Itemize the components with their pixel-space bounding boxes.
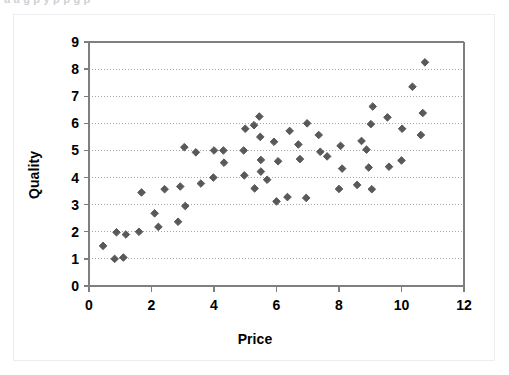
plot-area: 0123456789024681012 Quality Price [14,15,496,362]
data-point [120,254,128,262]
data-point [419,109,427,117]
data-point [302,194,310,202]
data-point [284,193,292,201]
data-point [257,168,265,176]
data-point [155,223,163,231]
data-point [358,137,366,145]
data-point [241,125,249,133]
data-point [323,153,331,161]
data-point [338,165,346,173]
data-point [335,185,343,193]
data-point [113,229,121,237]
data-point [241,172,249,180]
data-point [251,185,259,193]
y-axis-title: Quality [26,120,42,230]
data-point [353,181,361,189]
x-tick-label: 6 [273,297,281,313]
x-axis-title: Price [14,331,496,347]
data-point [385,163,393,171]
data-point [316,148,324,156]
data-point [135,228,143,236]
y-tick-label: 9 [71,34,79,50]
y-tick-label: 0 [71,278,79,294]
data-point [181,202,189,210]
data-point [369,103,377,111]
x-tick-label: 10 [394,297,410,313]
data-point [161,185,169,193]
x-tick-label: 8 [335,297,343,313]
y-tick-label: 8 [71,61,79,77]
data-point [337,142,345,150]
scatter-plot-svg: 0123456789024681012 [14,15,496,362]
y-tick-label: 7 [71,88,79,104]
data-point [99,242,107,250]
y-tick-label: 6 [71,115,79,131]
data-point [270,138,278,146]
y-tick-label: 5 [71,142,79,158]
y-tick-label: 4 [71,170,79,186]
data-point [138,189,146,197]
chart-figure: 0123456789024681012 Quality Price [13,14,495,361]
data-point [398,125,406,133]
data-point [363,146,371,154]
data-point [384,114,392,122]
data-point [250,121,258,129]
data-point [303,120,311,128]
data-point [256,113,264,121]
data-point [273,198,281,206]
clipped-header-text: a a g p y p p g p [0,0,509,7]
data-point [210,147,218,155]
data-point [367,120,375,128]
data-point [210,174,218,182]
x-tick-label: 2 [148,297,156,313]
data-point [220,159,228,167]
data-point [151,210,159,218]
data-point [409,83,417,91]
data-point [274,157,282,165]
data-point [365,164,373,172]
data-point [181,143,189,151]
y-tick-label: 3 [71,197,79,213]
data-point [197,180,205,188]
data-point [176,183,184,191]
data-point [286,127,294,135]
data-point [111,255,119,263]
y-tick-label: 2 [71,224,79,240]
data-point [315,131,323,139]
y-tick-label: 1 [71,251,79,267]
data-point [174,218,182,226]
data-point [417,131,425,139]
data-point [240,147,248,155]
x-tick-label: 12 [456,297,472,313]
data-point [368,185,376,193]
x-tick-label: 0 [85,297,93,313]
data-point [398,157,406,165]
x-tick-label: 4 [210,297,218,313]
data-point [220,147,228,155]
data-point [296,155,304,163]
data-point [257,156,265,164]
data-point [295,141,303,149]
data-point [192,149,200,157]
data-point [256,133,264,141]
data-point [421,59,429,67]
